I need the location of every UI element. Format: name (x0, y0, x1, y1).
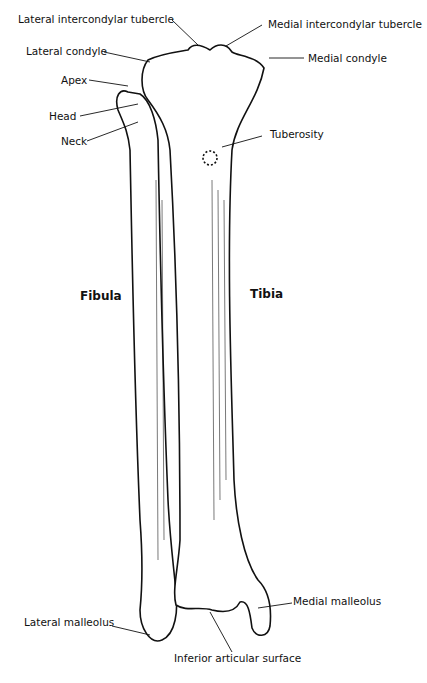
fibula-bone (117, 91, 177, 641)
label-inferior-articular-surface: Inferior articular surface (174, 652, 301, 664)
label-medial-malleolus: Medial malleolus (293, 595, 381, 607)
label-tuberosity: Tuberosity (270, 128, 324, 140)
label-fibula: Fibula (80, 289, 122, 303)
label-medial-intercondylar-tubercle: Medial intercondylar tubercle (268, 18, 422, 30)
label-lateral-condyle: Lateral condyle (26, 45, 107, 57)
label-lateral-intercondylar-tubercle: Lateral intercondylar tubercle (18, 13, 174, 25)
label-medial-condyle: Medial condyle (308, 52, 387, 64)
label-lateral-malleolus: Lateral malleolus (24, 616, 114, 628)
label-apex: Apex (61, 74, 87, 86)
label-tibia: Tibia (250, 287, 283, 301)
bone-illustration (0, 0, 427, 683)
label-head: Head (49, 110, 76, 122)
label-neck: Neck (61, 135, 87, 147)
